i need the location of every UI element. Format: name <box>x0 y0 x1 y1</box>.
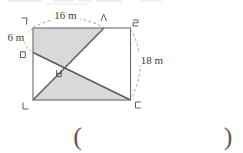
vertex-label-digeut-bottom-right <box>136 102 141 108</box>
vertex-label-nieun-bottom-left <box>23 103 29 110</box>
answer-open-paren: ( <box>73 122 82 151</box>
dimension-top-label: 16 m <box>54 9 77 21</box>
answer-close-paren: ) <box>224 122 233 151</box>
shaded-quad-giyeok-siot-bieup-mieum <box>33 28 104 68</box>
vertex-label-giyeok-top-left <box>22 18 28 25</box>
vertex-label-rieul-top-right <box>133 20 139 26</box>
diagram-canvas: 16 m 6 m 18 m ( ) <box>0 0 243 153</box>
cropped-text-artifact <box>8 0 162 5</box>
dimension-right-label: 18 m <box>141 54 164 66</box>
geometry-problem-figure: 16 m 6 m 18 m ( ) <box>0 0 243 153</box>
vertex-label-mieum-left-point <box>21 52 26 58</box>
dimension-left-label: 6 m <box>8 31 25 43</box>
shaded-triangle-nieun-digeut-bieup <box>33 68 131 100</box>
vertex-label-siot-top-point <box>101 14 107 21</box>
